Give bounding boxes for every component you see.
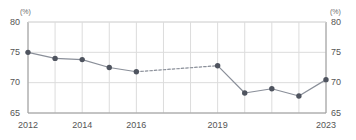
plot-area <box>0 0 356 140</box>
line-segment-solid <box>245 89 272 93</box>
line-chart: (%) (%) 65707580 65707580 20122014201620… <box>0 0 356 140</box>
x-axis-tick-label: 2023 <box>306 121 346 130</box>
line-segment-dashed <box>136 66 217 72</box>
x-axis-tick-label: 2012 <box>8 121 48 130</box>
data-point-marker <box>323 77 328 82</box>
x-axis-tick-label: 2016 <box>116 121 156 130</box>
data-point-marker <box>52 56 57 61</box>
data-point-marker <box>25 50 30 55</box>
x-axis-tick-label: 2019 <box>198 121 238 130</box>
y-axis-tick-label-left: 75 <box>2 48 20 57</box>
y-axis-tick-label-right: 75 <box>331 48 351 57</box>
grid-lines <box>28 22 326 113</box>
line-segment-solid <box>28 52 55 58</box>
data-line <box>28 52 326 96</box>
line-segment-solid <box>218 66 245 93</box>
line-segment-solid <box>299 80 326 96</box>
line-segment-solid <box>109 68 136 72</box>
y-axis-tick-label-left: 65 <box>2 109 20 118</box>
data-point-marker <box>269 86 274 91</box>
data-point-marker <box>296 93 301 98</box>
data-point-marker <box>107 65 112 70</box>
axis-frame <box>28 22 326 113</box>
line-segment-solid <box>55 58 82 59</box>
y-axis-tick-label-right: 65 <box>331 109 351 118</box>
data-point-marker <box>79 57 84 62</box>
line-segment-solid <box>82 60 109 68</box>
data-point-marker <box>215 63 220 68</box>
y-axis-tick-label-left: 80 <box>2 18 20 27</box>
y-axis-tick-label-right: 70 <box>331 78 351 87</box>
data-point-marker <box>242 90 247 95</box>
y-axis-tick-label-right: 80 <box>331 18 351 27</box>
data-point-marker <box>134 69 139 74</box>
y-axis-tick-label-left: 70 <box>2 78 20 87</box>
line-segment-solid <box>272 89 299 96</box>
x-axis-tick-label: 2014 <box>62 121 102 130</box>
